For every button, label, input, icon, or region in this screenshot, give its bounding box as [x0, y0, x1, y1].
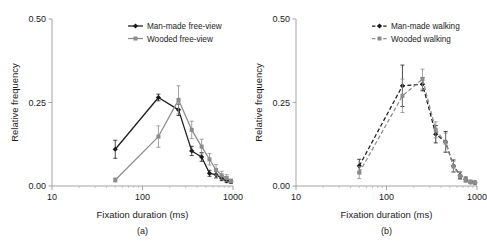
legend-marker: [377, 23, 382, 28]
panel-b-svg: 0.000.250.50101001000Fixation duration (…: [244, 0, 487, 246]
series-line: [115, 100, 231, 181]
legend-label: Man-made free-view: [147, 22, 222, 31]
data-point-marker: [190, 128, 194, 132]
legend-marker: [133, 23, 138, 28]
y-tick-label: 0.00: [272, 181, 290, 191]
data-point-marker: [229, 179, 233, 183]
panel-caption: (b): [381, 226, 392, 236]
y-axis-title: Relative frequency: [9, 63, 20, 142]
data-point-marker: [220, 173, 224, 177]
panel-a: 0.000.250.50101001000Fixation duration (…: [0, 0, 243, 246]
plot-frame: [296, 19, 477, 186]
data-point-marker: [473, 181, 477, 185]
data-point-marker: [434, 128, 438, 132]
x-axis-title: Fixation duration (ms): [97, 209, 189, 220]
series-2: [113, 86, 233, 183]
data-point-marker: [156, 135, 160, 139]
x-tick-label: 1000: [467, 192, 487, 202]
data-point-marker: [400, 94, 404, 98]
data-point-marker: [177, 98, 181, 102]
data-point-marker: [208, 157, 212, 161]
y-tick-label: 0.00: [28, 181, 46, 191]
panel-b: 0.000.250.50101001000Fixation duration (…: [244, 0, 487, 246]
data-point-marker: [469, 180, 473, 184]
legend-marker: [134, 37, 138, 41]
panel-a-canvas: 0.000.250.50101001000Fixation duration (…: [0, 0, 243, 246]
data-point-marker: [214, 168, 218, 172]
y-axis-title: Relative frequency: [253, 63, 264, 142]
legend-label: Man-made walking: [391, 22, 460, 31]
legend-label: Wooded free-view: [147, 35, 213, 44]
y-tick-label: 0.25: [28, 98, 46, 108]
plot-frame: [52, 19, 233, 186]
x-tick-label: 10: [47, 192, 57, 202]
y-tick-label: 0.25: [272, 98, 290, 108]
series-1: [357, 65, 478, 185]
data-point-marker: [421, 77, 425, 81]
x-axis-title: Fixation duration (ms): [341, 209, 433, 220]
data-point-marker: [452, 165, 456, 169]
panel-b-canvas: 0.000.250.50101001000Fixation duration (…: [244, 0, 487, 246]
series-2: [357, 69, 477, 185]
data-point-marker: [357, 171, 361, 175]
data-point-marker: [200, 145, 204, 149]
data-point-marker: [225, 176, 229, 180]
panel-a-svg: 0.000.250.50101001000Fixation duration (…: [0, 0, 243, 246]
figure-two-panel-line-charts: 0.000.250.50101001000Fixation duration (…: [0, 0, 487, 246]
data-point-marker: [113, 178, 117, 182]
data-point-marker: [207, 171, 212, 176]
data-point-marker: [464, 178, 468, 182]
x-tick-label: 100: [379, 192, 394, 202]
series-line: [359, 79, 475, 183]
x-tick-label: 10: [291, 192, 301, 202]
y-tick-label: 0.50: [28, 14, 46, 24]
legend-label: Wooded walking: [391, 35, 451, 44]
x-tick-label: 1000: [223, 192, 243, 202]
y-tick-label: 0.50: [272, 14, 290, 24]
data-point-marker: [444, 141, 448, 145]
x-tick-label: 100: [135, 192, 150, 202]
data-point-marker: [458, 174, 462, 178]
series-line: [359, 84, 475, 183]
panel-caption: (a): [137, 226, 148, 236]
legend-marker: [378, 37, 382, 41]
